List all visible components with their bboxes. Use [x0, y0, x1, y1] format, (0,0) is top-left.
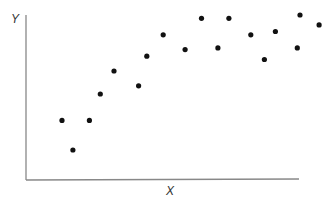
data-point	[226, 16, 231, 21]
data-point	[144, 54, 149, 59]
data-points	[59, 12, 321, 152]
data-point	[317, 22, 322, 27]
data-point	[87, 118, 92, 123]
data-point	[297, 12, 302, 17]
x-axis	[26, 179, 299, 180]
data-point	[295, 45, 300, 50]
data-point	[98, 91, 103, 96]
data-point	[136, 83, 141, 88]
data-point	[262, 57, 267, 62]
x-axis-label: X	[165, 184, 175, 198]
data-point	[273, 29, 278, 34]
data-point	[183, 47, 188, 52]
y-axis-label: Y	[11, 12, 20, 26]
data-point	[199, 16, 204, 21]
data-point	[70, 147, 75, 152]
data-point	[111, 68, 116, 73]
data-point	[59, 118, 64, 123]
data-point	[161, 32, 166, 37]
scatter-chart: Y X	[0, 0, 328, 203]
data-point	[248, 32, 253, 37]
data-point	[215, 45, 220, 50]
